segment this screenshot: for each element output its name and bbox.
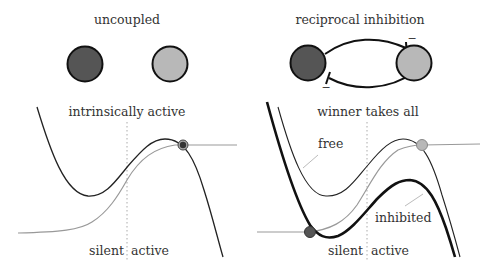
inhibition-minus-sign-bottom: − [321,81,330,94]
inhibition-arrow-dark-to-light [325,40,406,54]
inhibited-curve-label: inhibited [375,210,432,225]
inhibited-leader-line [405,194,423,206]
diagram-canvas: uncoupled intrinsically active silent ac… [0,0,498,272]
winner-takes-all-title: winner takes all [317,104,418,119]
active-label: active [131,243,169,258]
sigmoid-curve [257,144,480,232]
dark-neuron-icon [68,47,103,82]
light-neuron-icon [397,46,432,81]
inhibition-minus-sign-top: − [407,32,416,45]
left-panel: uncoupled intrinsically active silent ac… [18,12,237,262]
active-label: active [371,243,409,258]
dark-neuron-icon [291,46,326,81]
reciprocal-inhibition-title: reciprocal inhibition [296,12,425,27]
right-panel: reciprocal inhibition − − winner takes a… [257,12,480,262]
uncoupled-title: uncoupled [94,12,160,27]
light-neuron-icon [153,47,188,82]
free-curve-label: free [318,136,343,151]
silent-label: silent [89,243,124,258]
silent-label: silent [328,243,363,258]
light-fixed-point-icon [417,140,428,151]
intrinsically-active-title: intrinsically active [69,104,186,119]
fixed-point-icon [180,142,186,148]
free-leader-line [303,155,318,168]
dark-fixed-point-icon [305,227,316,238]
cubic-nullcline-curve [37,107,223,257]
inhibited-nullcline-curve [267,102,455,257]
